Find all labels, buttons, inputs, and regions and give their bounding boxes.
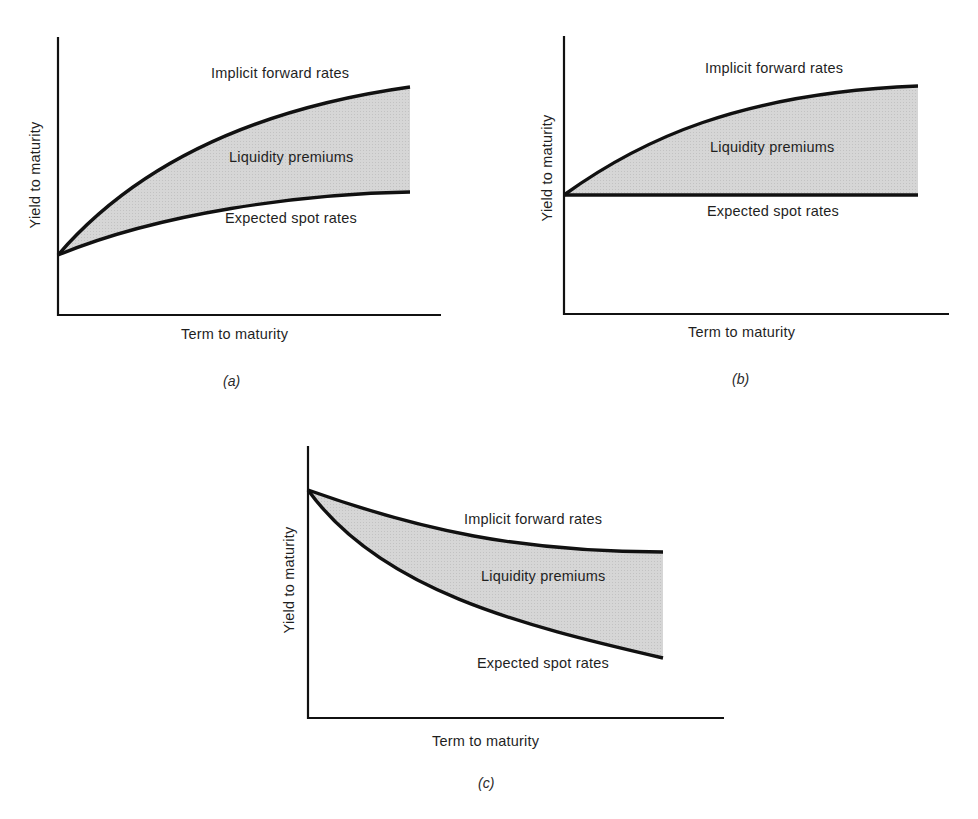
panel-a-x-axis-label: Term to maturity — [181, 326, 288, 342]
panel-c-y-axis-label: Yield to maturity — [281, 520, 297, 640]
panel-b-chart — [563, 36, 949, 315]
panel-a-liquidity-band — [58, 87, 410, 255]
panel-b-spot-label: Expected spot rates — [707, 203, 839, 219]
panel-a-spot-label: Expected spot rates — [225, 210, 357, 226]
panel-b-band-label: Liquidity premiums — [710, 139, 834, 155]
panel-b-forward-label: Implicit forward rates — [705, 60, 843, 76]
panel-b-y-axis-label: Yield to maturity — [539, 108, 555, 228]
panel-b-x-axis-label: Term to maturity — [688, 324, 795, 340]
panel-c-x-axis-label: Term to maturity — [432, 733, 539, 749]
panel-a-forward-label: Implicit forward rates — [211, 65, 349, 81]
panel-c-forward-label: Implicit forward rates — [464, 511, 602, 527]
panel-c-spot-label: Expected spot rates — [477, 655, 609, 671]
panel-a-caption: (a) — [223, 373, 240, 389]
panel-b-caption: (b) — [732, 371, 749, 387]
panel-c-caption: (c) — [478, 775, 494, 791]
panel-a-y-axis-label: Yield to maturity — [27, 115, 43, 235]
panel-a-band-label: Liquidity premiums — [229, 149, 353, 165]
panel-c-band-label: Liquidity premiums — [481, 568, 605, 584]
figure-canvas — [0, 0, 978, 819]
